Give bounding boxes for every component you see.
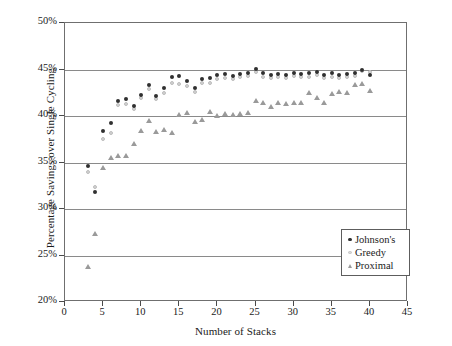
data-point	[162, 91, 166, 95]
legend-item: Proximal	[345, 259, 405, 272]
data-point	[321, 100, 327, 105]
data-point	[192, 119, 198, 124]
data-point	[123, 153, 129, 158]
data-point	[292, 74, 296, 78]
data-point	[246, 71, 250, 75]
data-point	[269, 76, 273, 80]
data-point	[200, 81, 204, 85]
data-point	[132, 104, 136, 108]
data-point	[299, 72, 303, 76]
data-point	[139, 96, 143, 100]
data-point	[345, 75, 349, 79]
triangle-icon	[348, 264, 352, 268]
data-point	[124, 97, 128, 101]
data-point	[353, 74, 357, 78]
data-point	[85, 264, 91, 269]
y-tick-label: 25%	[0, 248, 57, 259]
x-tick-label: 10	[120, 306, 160, 317]
data-point	[101, 129, 105, 133]
y-tick-30	[59, 208, 64, 209]
data-point	[161, 127, 167, 132]
data-point	[215, 77, 219, 81]
data-point	[154, 94, 158, 98]
data-point	[246, 74, 250, 78]
data-point	[238, 72, 242, 76]
y-tick-25	[59, 255, 64, 256]
data-point	[170, 75, 174, 79]
data-point	[184, 110, 190, 115]
data-point	[185, 84, 189, 88]
data-point	[193, 90, 197, 94]
data-point	[147, 87, 151, 91]
chart-figure: Percentage Savings over Single Cycling 2…	[0, 0, 452, 346]
data-point	[368, 73, 372, 77]
x-tick-label: 5	[82, 306, 122, 317]
data-point	[215, 73, 219, 77]
legend-marker-icon	[345, 238, 355, 242]
x-tick-label: 35	[311, 306, 351, 317]
data-point	[344, 90, 350, 95]
data-point	[208, 76, 212, 80]
data-point	[208, 81, 212, 85]
legend-item: Greedy	[345, 246, 405, 259]
data-point	[162, 86, 166, 90]
data-point	[131, 141, 137, 146]
y-tick-50	[59, 22, 64, 23]
data-point	[307, 71, 311, 75]
data-point	[237, 111, 243, 116]
data-point	[86, 170, 90, 174]
data-point	[283, 101, 289, 106]
data-point	[284, 73, 288, 77]
legend-label: Greedy	[355, 246, 386, 259]
data-point	[93, 190, 97, 194]
x-tick-label: 30	[273, 306, 313, 317]
data-point	[298, 100, 304, 105]
data-point	[291, 100, 297, 105]
data-point	[245, 110, 251, 115]
data-point	[223, 72, 227, 76]
data-point	[231, 74, 235, 78]
y-tick-label: 50%	[0, 15, 57, 26]
data-point	[100, 165, 106, 170]
data-point	[315, 70, 319, 74]
y-tick-40	[59, 115, 64, 116]
data-point	[222, 111, 228, 116]
data-point	[238, 75, 242, 79]
data-point	[268, 104, 274, 109]
data-point	[359, 81, 365, 86]
legend-label: Johnson's	[355, 233, 395, 246]
data-point	[154, 97, 158, 101]
data-point	[177, 82, 181, 86]
data-point	[147, 83, 151, 87]
data-point	[132, 107, 136, 111]
legend-marker-icon	[345, 251, 355, 255]
data-point	[345, 72, 349, 76]
data-point	[353, 71, 357, 75]
data-point	[193, 86, 197, 90]
data-point	[109, 131, 113, 135]
y-tick-label: 40%	[0, 108, 57, 119]
data-point	[146, 118, 152, 123]
data-point	[322, 76, 326, 80]
y-tick-label: 35%	[0, 155, 57, 166]
data-point	[275, 100, 281, 105]
data-point	[330, 75, 334, 79]
data-point	[124, 102, 128, 106]
data-point	[116, 103, 120, 107]
data-point	[284, 76, 288, 80]
x-axis-title: Number of Stacks	[64, 325, 407, 337]
gridline-35	[65, 163, 406, 164]
data-point	[231, 77, 235, 81]
filled-circle-icon	[348, 238, 352, 242]
data-point	[177, 74, 181, 78]
data-point	[108, 155, 114, 160]
data-point	[101, 137, 105, 141]
x-tick-label: 20	[196, 306, 236, 317]
data-point	[92, 231, 98, 236]
data-point	[367, 88, 373, 93]
data-point	[269, 73, 273, 77]
y-tick-label: 20%	[0, 294, 57, 305]
data-point	[207, 109, 213, 114]
data-point	[299, 75, 303, 79]
y-tick-45	[59, 69, 64, 70]
